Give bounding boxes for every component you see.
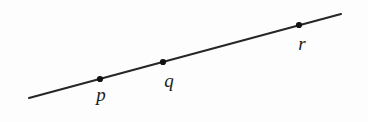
point-label-p: p <box>96 85 106 104</box>
point-label-r: r <box>298 34 305 53</box>
point-marker-r <box>296 22 302 28</box>
line-diagram-canvas <box>0 0 368 122</box>
geometry-figure: pqr <box>0 0 368 122</box>
point-label-q: q <box>164 71 174 90</box>
point-marker-p <box>97 76 103 82</box>
line-segment <box>29 14 341 98</box>
point-marker-q <box>160 59 166 65</box>
